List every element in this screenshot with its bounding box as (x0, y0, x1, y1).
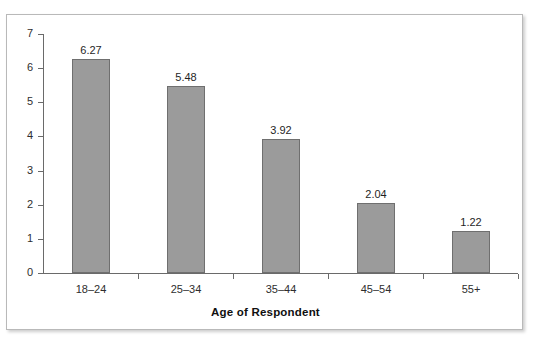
y-tick-mark (38, 136, 43, 137)
bar-value-label: 2.04 (346, 188, 406, 200)
y-tick-label: 2 (9, 199, 33, 210)
x-tick-mark (328, 274, 329, 279)
y-tick-label: 3 (9, 165, 33, 176)
y-tick-mark (38, 205, 43, 206)
x-category-label: 55+ (431, 283, 511, 295)
bar (357, 203, 395, 273)
bar-value-label: 5.48 (156, 71, 216, 83)
bar (452, 231, 490, 273)
chart-figure-frame: 01234567 6.2718–245.4825–343.9235–442.04… (6, 14, 523, 330)
x-tick-mark (423, 274, 424, 279)
x-category-label: 25–34 (146, 283, 226, 295)
cut-off-text-above-figure (0, 0, 539, 7)
bar-value-label: 1.22 (441, 216, 501, 228)
y-tick-mark (38, 273, 43, 274)
bar (262, 139, 300, 273)
y-tick-label: 1 (9, 233, 33, 244)
plot-area: 01234567 6.2718–245.4825–343.9235–442.04… (7, 15, 522, 329)
y-tick-mark (38, 239, 43, 240)
y-tick-label: 6 (9, 62, 33, 73)
y-tick-label: 7 (9, 28, 33, 39)
x-axis-title: Age of Respondent (7, 306, 524, 318)
y-tick-label: 4 (9, 130, 33, 141)
y-tick-mark (38, 34, 43, 35)
x-tick-mark (518, 274, 519, 279)
y-tick-mark (38, 102, 43, 103)
x-category-label: 45–54 (336, 283, 416, 295)
bar (167, 86, 205, 273)
x-axis-line (43, 273, 518, 274)
x-category-label: 35–44 (241, 283, 321, 295)
y-axis-line (43, 34, 44, 274)
x-tick-mark (233, 274, 234, 279)
bar-value-label: 3.92 (251, 124, 311, 136)
x-category-label: 18–24 (51, 283, 131, 295)
y-tick-mark (38, 171, 43, 172)
x-tick-mark (138, 274, 139, 279)
y-tick-label: 0 (9, 267, 33, 278)
y-tick-mark (38, 68, 43, 69)
y-tick-label: 5 (9, 96, 33, 107)
bar-value-label: 6.27 (61, 44, 121, 56)
bar (72, 59, 110, 273)
